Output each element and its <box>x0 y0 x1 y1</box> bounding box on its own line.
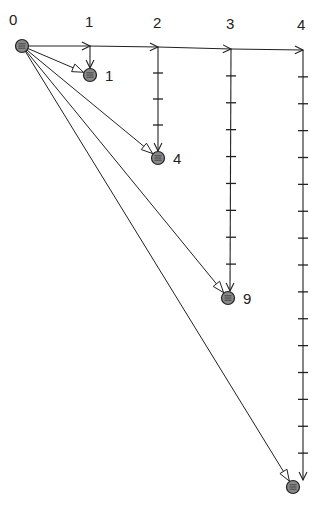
point-label-0: 1 <box>105 68 113 83</box>
diagonal-arrowhead-icon <box>141 143 152 153</box>
diagonal-3 <box>22 46 289 481</box>
diagram-canvas <box>0 0 323 508</box>
point-label-1: 4 <box>173 151 181 166</box>
diagonal-2 <box>22 46 224 293</box>
vertical-segment-2 <box>230 49 231 291</box>
column-label-2: 2 <box>153 15 161 30</box>
horizontal-step-1 <box>90 46 158 47</box>
point-label-2: 9 <box>243 291 251 306</box>
diagonal-arrowhead-icon <box>280 469 289 481</box>
horizontal-step-3 <box>231 49 303 50</box>
diagonal-arrowhead-icon <box>213 281 223 292</box>
column-label-1: 1 <box>85 14 93 29</box>
column-label-3: 3 <box>226 16 234 31</box>
diagonal-arrowhead-icon <box>72 64 84 72</box>
column-label-4: 4 <box>297 17 305 32</box>
horizontal-step-2 <box>158 47 231 49</box>
column-label-0: 0 <box>9 12 17 27</box>
